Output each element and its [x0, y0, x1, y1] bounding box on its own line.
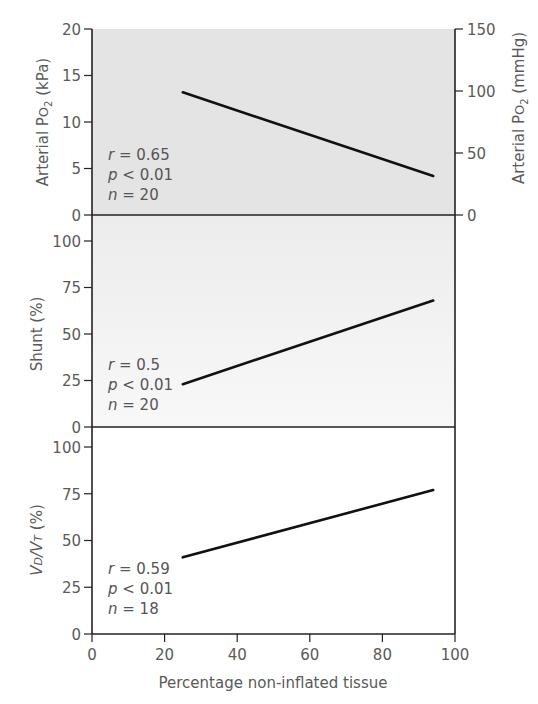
tick-label: 10	[62, 114, 81, 132]
p3-left-tick-labels: 100 75 50 25 0	[52, 439, 81, 644]
p1-right-ticks	[455, 29, 463, 215]
p1-left-ticks	[84, 29, 92, 215]
svg-text:r = 0.59: r = 0.59	[108, 560, 170, 578]
x-axis-title: Percentage non-inflated tissue	[159, 674, 388, 692]
svg-text:r = 0.5: r = 0.5	[108, 356, 160, 374]
tick-label: 50	[62, 532, 81, 550]
p2-axis-title: Shunt (%)	[28, 297, 46, 372]
tick-label: 5	[71, 160, 81, 178]
tick-label: 0	[467, 207, 477, 225]
svg-text:n = 20: n = 20	[108, 396, 159, 414]
tick-label: 100	[441, 646, 470, 664]
p1-left-tick-labels: 20 15 10 5 0	[62, 21, 81, 225]
p1-right-axis-title: Arterial PO2 (mmHg)	[510, 32, 530, 184]
tick-label: 100	[52, 439, 81, 457]
tick-label: 20	[62, 21, 81, 39]
p3-left-ticks	[84, 447, 92, 634]
svg-text:r = 0.65: r = 0.65	[108, 146, 170, 164]
p1-left-axis-title: Arterial PO2 (kPa)	[34, 58, 54, 186]
p2-left-ticks	[84, 241, 92, 427]
svg-text:p < 0.01: p < 0.01	[107, 166, 173, 184]
tick-label: 0	[71, 419, 81, 437]
tick-label: 50	[62, 326, 81, 344]
tick-label: 15	[62, 67, 81, 85]
svg-text:p < 0.01: p < 0.01	[107, 580, 173, 598]
tick-label: 80	[373, 646, 392, 664]
tick-label: 60	[300, 646, 319, 664]
tick-label: 0	[71, 207, 81, 225]
tick-label: 100	[52, 233, 81, 251]
tick-label: 25	[62, 372, 81, 390]
svg-text:p < 0.01: p < 0.01	[107, 376, 173, 394]
p1-right-tick-labels: 150 100 50 0	[467, 21, 496, 225]
tick-label: 20	[155, 646, 174, 664]
tick-label: 75	[62, 486, 81, 504]
tick-label: 40	[228, 646, 247, 664]
tick-label: 100	[467, 83, 496, 101]
x-ticks	[92, 634, 455, 642]
p2-left-tick-labels: 100 75 50 25 0	[52, 233, 81, 437]
tick-label: 0	[87, 646, 97, 664]
svg-text:n = 18: n = 18	[108, 600, 159, 618]
x-tick-labels: 0 20 40 60 80 100	[87, 646, 469, 664]
tick-label: 150	[467, 21, 496, 39]
tick-label: 25	[62, 579, 81, 597]
tick-label: 0	[71, 626, 81, 644]
p3-axis-title: VD/VT (%)	[28, 504, 46, 576]
chart-figure: 20 15 10 5 0 150 100 50 0 100 75 50 25 0	[0, 0, 538, 704]
tick-label: 75	[62, 279, 81, 297]
svg-text:n = 20: n = 20	[108, 186, 159, 204]
tick-label: 50	[467, 145, 486, 163]
